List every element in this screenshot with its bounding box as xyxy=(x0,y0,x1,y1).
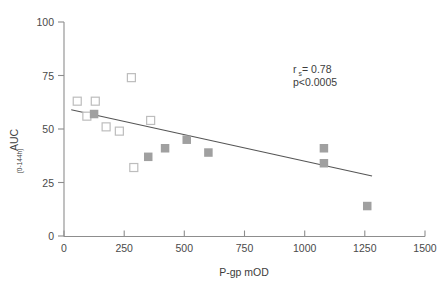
pvalue-text: p<0.0005 xyxy=(293,76,337,88)
data-point-open-squares-1 xyxy=(91,97,99,105)
data-point-open-squares-7 xyxy=(147,116,155,124)
data-point-filled-squares-6 xyxy=(320,159,329,168)
data-point-filled-squares-7 xyxy=(363,202,372,211)
chart-canvas: 100 75 50 25 0 0 250 500 750 1000 1250 1… xyxy=(0,0,440,294)
x-tick-label-1500: 1500 xyxy=(413,242,437,254)
x-tick-label-1000: 1000 xyxy=(293,242,317,254)
y-tick-label-0: 0 xyxy=(48,230,54,242)
statistics-annotation: r s = 0.78 p<0.0005 xyxy=(293,63,337,88)
data-point-open-squares-6 xyxy=(130,164,138,172)
data-point-open-squares-5 xyxy=(127,74,135,82)
x-tick-label-0: 0 xyxy=(61,242,67,254)
data-point-filled-squares-4 xyxy=(204,148,213,157)
y-tick-label-25: 25 xyxy=(42,177,54,189)
y-tick-label-50: 50 xyxy=(42,123,54,135)
x-axis-title: P-gp mOD xyxy=(219,266,269,278)
scatter-plot-figure: 100 75 50 25 0 0 250 500 750 1000 1250 1… xyxy=(0,0,440,294)
y-tick-label-100: 100 xyxy=(36,16,54,28)
data-point-filled-squares-1 xyxy=(144,153,153,162)
x-axis: 0 250 500 750 1000 1250 1500 xyxy=(61,231,437,255)
data-point-filled-squares-3 xyxy=(182,135,191,144)
data-series-filled-squares xyxy=(90,110,372,211)
y-axis-title-group: AUC (0-144h) xyxy=(8,128,24,173)
data-point-open-squares-2 xyxy=(83,112,91,120)
data-point-open-squares-3 xyxy=(102,123,110,131)
data-point-open-squares-0 xyxy=(73,97,81,105)
x-tick-label-750: 750 xyxy=(236,242,254,254)
y-tick-label-75: 75 xyxy=(42,70,54,82)
x-tick-label-250: 250 xyxy=(115,242,133,254)
data-point-filled-squares-2 xyxy=(161,144,170,153)
data-point-filled-squares-5 xyxy=(320,144,329,153)
y-axis: 100 75 50 25 0 xyxy=(36,16,64,242)
y-axis-title-subscript: (0-144h) xyxy=(16,149,24,174)
correlation-value: = 0.78 xyxy=(302,63,332,75)
y-axis-title: AUC xyxy=(8,128,20,151)
correlation-label: r xyxy=(293,63,297,75)
x-tick-label-500: 500 xyxy=(176,242,194,254)
x-axis-title-group: P-gp mOD xyxy=(219,266,269,278)
data-point-filled-squares-0 xyxy=(90,110,99,119)
data-series-open-squares xyxy=(73,74,154,172)
data-point-open-squares-4 xyxy=(115,127,123,135)
x-tick-label-1250: 1250 xyxy=(353,242,377,254)
